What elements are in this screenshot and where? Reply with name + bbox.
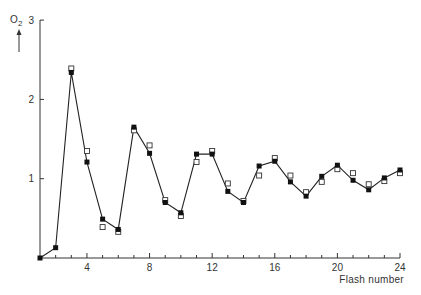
up-arrow-icon bbox=[17, 29, 22, 52]
filled-square-marker bbox=[319, 174, 324, 179]
oxygen-flash-yield-chart: 1234812162024 O2 Flash number bbox=[0, 0, 421, 295]
open-square-marker bbox=[288, 173, 293, 178]
filled-square-marker bbox=[116, 227, 121, 232]
filled-square-marker bbox=[53, 245, 58, 250]
filled-square-marker bbox=[69, 70, 74, 75]
filled-square-marker bbox=[131, 125, 136, 130]
open-square-marker bbox=[194, 160, 199, 165]
filled-square-marker bbox=[38, 256, 43, 261]
y-axis-label: O2 bbox=[10, 14, 23, 28]
x-tick-label: 4 bbox=[84, 262, 90, 273]
open-square-marker bbox=[351, 171, 356, 176]
y-tick-label: 2 bbox=[28, 94, 34, 105]
open-square-marker bbox=[366, 182, 371, 187]
x-axis-label: Flash number bbox=[339, 274, 404, 285]
x-tick-label: 16 bbox=[269, 262, 281, 273]
filled-square-marker bbox=[272, 159, 277, 164]
open-square-marker bbox=[84, 148, 89, 153]
open-square-marker bbox=[147, 143, 152, 148]
filled-square-marker bbox=[100, 217, 105, 222]
filled-square-marker bbox=[147, 151, 152, 156]
open-square-marker bbox=[319, 179, 324, 184]
filled-square-marker bbox=[335, 163, 340, 168]
axes: 1234812162024 bbox=[28, 15, 406, 273]
filled-square-marker bbox=[351, 178, 356, 183]
filled-square-marker bbox=[210, 152, 215, 157]
filled-square-marker bbox=[225, 189, 230, 194]
measured-series-markers bbox=[38, 70, 403, 261]
open-square-marker bbox=[257, 173, 262, 178]
measured-line bbox=[40, 72, 400, 258]
filled-square-marker bbox=[257, 164, 262, 169]
filled-square-marker bbox=[163, 200, 168, 205]
filled-square-marker bbox=[398, 167, 403, 172]
filled-square-marker bbox=[241, 200, 246, 205]
measured-series-line bbox=[40, 72, 400, 258]
y-tick-label: 1 bbox=[28, 173, 34, 184]
x-tick-label: 8 bbox=[147, 262, 153, 273]
filled-square-marker bbox=[194, 152, 199, 157]
y-tick-label: 3 bbox=[28, 15, 34, 26]
open-square-marker bbox=[225, 181, 230, 186]
filled-square-marker bbox=[288, 179, 293, 184]
x-tick-label: 12 bbox=[207, 262, 219, 273]
open-square-marker bbox=[100, 225, 105, 230]
filled-square-marker bbox=[382, 175, 387, 180]
x-tick-label: 24 bbox=[394, 262, 406, 273]
filled-square-marker bbox=[84, 160, 89, 165]
calculated-series-markers bbox=[69, 66, 403, 234]
filled-square-marker bbox=[178, 210, 183, 215]
filled-square-marker bbox=[366, 187, 371, 192]
filled-square-marker bbox=[304, 194, 309, 199]
x-tick-label: 20 bbox=[332, 262, 344, 273]
